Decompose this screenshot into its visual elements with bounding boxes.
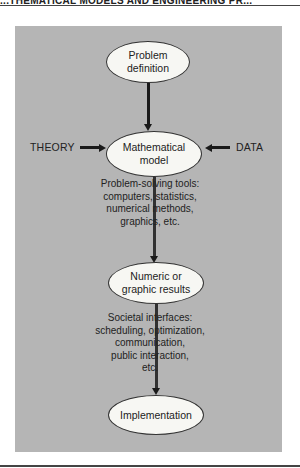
bottom-rule xyxy=(0,465,300,467)
societal-note: Societal interfaces: scheduling, optimiz… xyxy=(60,312,240,375)
node-label: graphic results xyxy=(122,283,190,296)
arrow-right-icon xyxy=(99,144,106,152)
note-line: scheduling, optimization, xyxy=(60,325,240,338)
connector-line xyxy=(147,83,150,126)
tools-note: Problem-solving tools: computers, statis… xyxy=(60,178,240,228)
header-rule xyxy=(0,5,300,6)
node-label: Problem xyxy=(128,49,167,62)
node-implementation: Implementation xyxy=(108,395,204,435)
node-numeric-results: Numeric or graphic results xyxy=(108,262,204,304)
arrow-down-icon xyxy=(144,124,152,131)
note-line: communication, xyxy=(60,337,240,350)
node-label: model xyxy=(140,154,169,167)
node-label: Numeric or xyxy=(130,270,181,283)
note-line: numerical methods, xyxy=(60,203,240,216)
note-line: etc. xyxy=(60,362,240,375)
input-data-label: DATA xyxy=(236,141,263,153)
node-label: Mathematical xyxy=(123,141,185,154)
connector-line xyxy=(211,146,230,149)
note-line: graphics, etc. xyxy=(60,216,240,229)
node-problem-definition: Problem definition xyxy=(106,41,190,83)
note-line: computers, statistics, xyxy=(60,191,240,204)
arrow-down-icon xyxy=(152,388,160,395)
node-label: Implementation xyxy=(120,409,192,422)
node-mathematical-model: Mathematical model xyxy=(106,131,202,177)
node-label: definition xyxy=(127,62,169,75)
connector-line xyxy=(80,146,100,149)
note-line: public interaction, xyxy=(60,350,240,363)
input-theory-label: THEORY xyxy=(30,141,75,153)
note-line: Problem-solving tools: xyxy=(60,178,240,191)
note-line: Societal interfaces: xyxy=(60,312,240,325)
